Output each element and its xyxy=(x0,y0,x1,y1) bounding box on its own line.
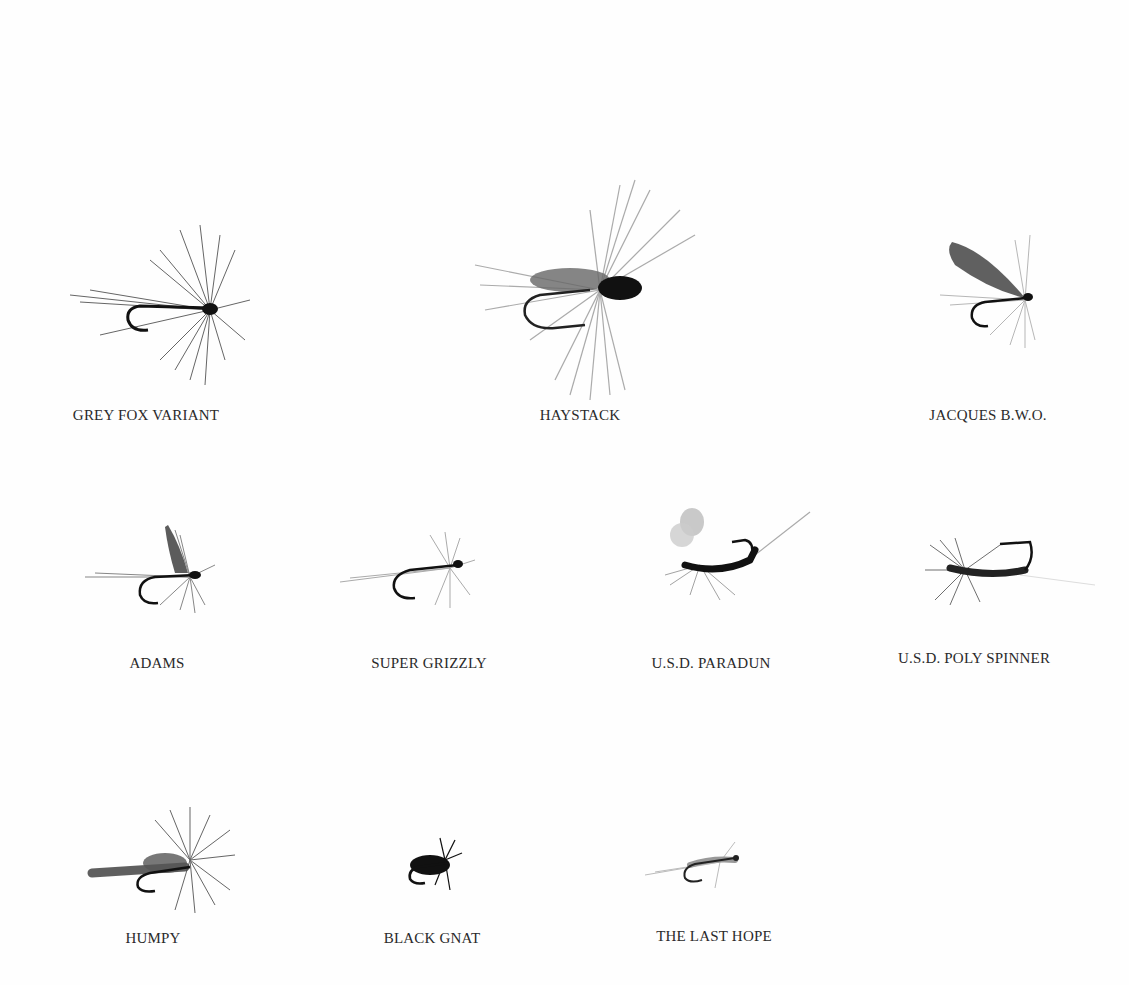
fly-black-gnat xyxy=(400,835,470,895)
fly-label: SUPER GRIZZLY xyxy=(371,655,487,672)
fly-label: THE LAST HOPE xyxy=(656,928,772,945)
fly-the-last-hope xyxy=(640,840,750,890)
adams-illustration xyxy=(80,515,220,615)
fly-grey-fox-variant xyxy=(60,220,260,390)
humpy-illustration xyxy=(80,805,250,915)
fly-label: HUMPY xyxy=(125,930,180,947)
usd-paradun-illustration xyxy=(660,500,820,610)
fly-label: GREY FOX VARIANT xyxy=(73,407,219,424)
fly-plate: GREY FOX VARIANT HAYSTACK xyxy=(0,0,1129,985)
fly-usd-paradun xyxy=(660,500,820,610)
fly-label: HAYSTACK xyxy=(540,407,621,424)
haystack-illustration xyxy=(470,180,710,400)
grey-fox-variant-illustration xyxy=(60,220,260,390)
fly-label: BLACK GNAT xyxy=(384,930,481,947)
fly-haystack xyxy=(470,180,710,400)
black-gnat-illustration xyxy=(400,835,470,895)
fly-label: JACQUES B.W.O. xyxy=(929,407,1046,424)
fly-usd-poly-spinner xyxy=(920,530,1100,610)
fly-label: U.S.D. PARADUN xyxy=(652,655,771,672)
fly-adams xyxy=(80,515,220,615)
the-last-hope-illustration xyxy=(640,840,750,890)
usd-poly-spinner-illustration xyxy=(920,530,1100,610)
super-grizzly-illustration xyxy=(330,530,490,610)
fly-super-grizzly xyxy=(330,530,490,610)
jacques-bwo-illustration xyxy=(930,230,1050,350)
fly-humpy xyxy=(80,805,250,915)
fly-jacques-bwo xyxy=(930,230,1050,350)
fly-label: U.S.D. POLY SPINNER xyxy=(898,650,1050,667)
fly-label: ADAMS xyxy=(129,655,184,672)
